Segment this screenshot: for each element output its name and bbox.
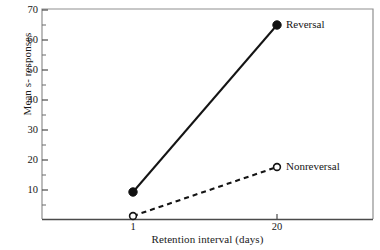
chart-figure: Mean s- responses 70 60 50 40 30 20 10 1… bbox=[0, 0, 380, 250]
data-point-reversal-day1 bbox=[129, 188, 137, 196]
series-label-nonreversal: Nonreversal bbox=[286, 161, 340, 172]
y-axis-major-ticks bbox=[42, 10, 48, 190]
data-point-nonreversal-day20 bbox=[274, 164, 281, 171]
series-line-nonreversal bbox=[133, 167, 277, 216]
series-line-reversal bbox=[133, 25, 277, 192]
chart-canvas bbox=[0, 0, 380, 250]
x-axis-title: Retention interval (days) bbox=[42, 233, 373, 245]
data-point-nonreversal-day1 bbox=[130, 213, 137, 220]
series-label-reversal: Reversal bbox=[286, 19, 324, 30]
x-axis-ticks bbox=[133, 214, 277, 219]
data-point-reversal-day20 bbox=[273, 21, 281, 29]
plot-frame bbox=[42, 9, 373, 219]
